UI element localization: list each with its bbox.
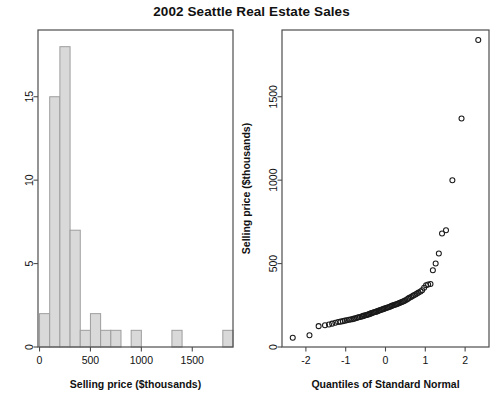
histogram-bar [60, 47, 70, 347]
data-point [290, 335, 295, 340]
histogram-bar [70, 230, 80, 347]
qqplot-y-tick-label: 0 [267, 344, 279, 350]
histogram-y-tick-label: 15 [23, 91, 35, 103]
histogram-bar [111, 330, 121, 347]
histogram-bar [172, 330, 182, 347]
data-point [450, 178, 455, 183]
histogram-bar [50, 97, 60, 347]
data-point [316, 324, 321, 329]
qqplot-x-tick-label: 0 [383, 354, 389, 366]
data-point [430, 268, 435, 273]
figure-container: 2002 Seattle Real Estate Sales 050010001… [0, 0, 503, 405]
histogram-x-tick-label: 500 [82, 354, 100, 366]
histogram-x-tick-label: 0 [37, 354, 43, 366]
data-point [436, 251, 441, 256]
histogram-bar [223, 330, 233, 347]
qqplot-x-axis-label: Quantiles of Standard Normal [311, 378, 459, 390]
histogram-y-tick-label: 0 [23, 344, 35, 350]
histogram-x-tick-label: 1000 [130, 354, 154, 366]
data-point [433, 261, 438, 266]
qqplot-x-tick-label: -2 [301, 354, 310, 366]
histogram-x-tick-label: 1500 [181, 354, 205, 366]
histogram-y-tick-label: 10 [23, 174, 35, 186]
data-point [444, 228, 449, 233]
histogram-bar [90, 314, 100, 347]
plot-area: 050010001500051015Selling price ($thousa… [0, 0, 503, 405]
data-point [307, 333, 312, 338]
qqplot-x-tick-label: -1 [341, 354, 350, 366]
data-point [459, 116, 464, 121]
qqplot-y-tick-label: 1500 [267, 85, 279, 109]
data-point [476, 38, 481, 43]
histogram-y-tick-label: 5 [23, 261, 35, 267]
histogram-bar [101, 330, 111, 347]
qqplot-frame [282, 30, 489, 347]
qqplot-y-tick-label: 1000 [267, 168, 279, 192]
qqplot-y-axis-label: Selling price ($thousands) [240, 123, 252, 254]
histogram-bar [131, 330, 141, 347]
histogram-bar [40, 314, 50, 347]
histogram-x-axis-label: Selling price ($thousands) [70, 378, 201, 390]
qqplot-y-tick-label: 500 [267, 255, 279, 273]
qqplot-x-tick-label: 1 [422, 354, 428, 366]
histogram-bar [80, 330, 90, 347]
qqplot-x-tick-label: 2 [462, 354, 468, 366]
